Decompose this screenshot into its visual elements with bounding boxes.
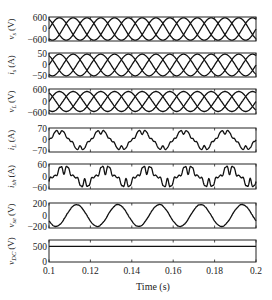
y-tick-label: −50 xyxy=(32,71,47,81)
y-tick-label: 0 xyxy=(42,211,47,221)
y-tick-label: −60 xyxy=(32,183,47,193)
y-tick-label: 0 xyxy=(42,24,47,34)
y-tick-label: 60 xyxy=(38,160,48,170)
subplot-vse: 2000−200vse(V) xyxy=(6,199,256,232)
trace-is-phase-1 xyxy=(49,54,256,76)
subplot-ish: 600−60ish(A) xyxy=(6,160,256,193)
subplot-vdc: 5000vDC(V) xyxy=(6,237,256,267)
y-axis-label: vse(V) xyxy=(6,204,17,228)
y-axis-label: iL(A) xyxy=(6,130,17,151)
x-tick-label: 0.1 xyxy=(43,266,55,276)
figure: 6000−600vs(V)500−50is(A)6000−600vL(V)700… xyxy=(0,0,272,300)
axes-frame xyxy=(49,240,256,262)
trace-vs-phase-1 xyxy=(49,18,256,40)
y-axis-label: ish(A) xyxy=(6,165,17,188)
x-axis-label: Time (s) xyxy=(136,281,170,293)
x-tick-label: 0.14 xyxy=(123,266,140,276)
y-tick-label: 500 xyxy=(33,242,48,252)
subplots: 6000−600vs(V)500−50is(A)6000−600vL(V)700… xyxy=(6,13,256,267)
subplot-vs: 6000−600vs(V) xyxy=(6,13,256,45)
subplot-iL: 700−70iL(A) xyxy=(6,124,256,156)
y-tick-label: −200 xyxy=(27,222,47,232)
y-axis-label: vs(V) xyxy=(6,18,17,39)
y-tick-label: −600 xyxy=(27,35,47,45)
y-tick-label: −70 xyxy=(32,146,47,156)
y-axis-label: vL(V) xyxy=(6,90,17,112)
y-tick-label: 0 xyxy=(42,60,47,70)
y-tick-label: 0 xyxy=(42,97,47,107)
y-tick-label: 600 xyxy=(33,13,48,23)
x-tick-label: 0.18 xyxy=(206,266,223,276)
y-axis-label: vDC(V) xyxy=(6,237,17,265)
trace-iL xyxy=(49,130,256,149)
x-tick-label: 0.2 xyxy=(250,266,262,276)
y-tick-label: 70 xyxy=(38,124,48,134)
trace-ish xyxy=(49,166,256,187)
y-tick-label: 0 xyxy=(42,172,47,182)
trace-vse xyxy=(49,204,256,226)
subplot-vL: 6000−600vL(V) xyxy=(6,85,256,118)
y-tick-label: 0 xyxy=(42,135,47,145)
subplot-is: 500−50is(A) xyxy=(6,49,256,81)
y-tick-label: 200 xyxy=(33,199,48,209)
x-tick-label: 0.16 xyxy=(165,266,182,276)
y-axis-label: is(A) xyxy=(6,55,17,75)
x-tick-label: 0.12 xyxy=(82,266,99,276)
y-tick-label: 50 xyxy=(38,49,48,59)
y-tick-label: 600 xyxy=(33,85,48,95)
y-tick-label: −600 xyxy=(27,108,47,118)
x-axis: 0.10.120.140.160.180.2 xyxy=(43,266,262,276)
trace-vL-phase-1 xyxy=(49,92,256,112)
